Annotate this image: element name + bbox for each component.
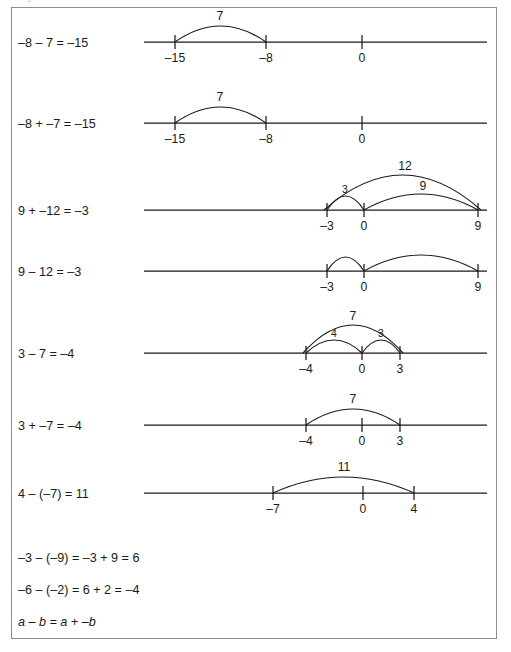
span-arc-label: 7 xyxy=(217,9,224,23)
span-arc xyxy=(327,257,364,271)
span-arc xyxy=(364,194,478,210)
span-arc xyxy=(273,477,414,493)
number-line-row: –8 + –7 = –15–15–807 xyxy=(18,90,487,146)
span-arc-label: 11 xyxy=(338,460,351,474)
axis-tick-label: 9 xyxy=(475,280,482,294)
row-equation-label: –8 + –7 = –15 xyxy=(18,117,96,131)
span-arc xyxy=(327,196,364,210)
span-arc xyxy=(175,26,266,42)
span-arc-label: 9 xyxy=(420,179,427,193)
number-line-row: 3 + –7 = –4–4037 xyxy=(18,392,487,448)
row-equation-label: 3 + –7 = –4 xyxy=(18,419,82,433)
span-arc-label: 12 xyxy=(398,159,412,173)
axis-tick-label: 0 xyxy=(361,219,368,233)
axis-tick-label: –8 xyxy=(259,51,273,65)
axis-tick-label: –15 xyxy=(165,132,186,146)
footer-equation: –6 – (–2) = 6 + 2 = –4 xyxy=(18,583,139,597)
row-equation-label: 9 – 12 = –3 xyxy=(18,265,81,279)
span-arc-label: 3 xyxy=(342,184,348,195)
span-arc xyxy=(306,409,400,425)
number-line-row: 3 – 7 = –4–403743 xyxy=(18,309,487,376)
axis-tick-label: 9 xyxy=(475,219,482,233)
row-equation-label: 9 + –12 = –3 xyxy=(18,204,89,218)
footer-equation: a – b = a + –b xyxy=(18,615,96,629)
axis-tick-label: 0 xyxy=(359,434,366,448)
span-arc-label: 3 xyxy=(378,328,384,339)
number-line-row: 4 – (–7) = 11–70411 xyxy=(18,460,487,516)
span-arc xyxy=(362,340,400,353)
axis-tick-label: 0 xyxy=(359,362,366,376)
axis-tick-label: –8 xyxy=(259,132,273,146)
axis-tick-label: 3 xyxy=(397,362,404,376)
axis-tick-label: 0 xyxy=(359,51,366,65)
number-line-row: 9 – 12 = –3–309 xyxy=(18,255,487,294)
axis-tick-label: –15 xyxy=(165,51,186,65)
row-equation-label: 3 – 7 = –4 xyxy=(18,347,74,361)
axis-tick-label: 0 xyxy=(360,502,367,516)
axis-tick-label: 3 xyxy=(397,434,404,448)
figure-root: integers.tiff –8 – 7 = –15–15–807–8 + –7… xyxy=(0,0,511,652)
number-line-rows: –8 – 7 = –15–15–807–8 + –7 = –15–15–8079… xyxy=(18,9,487,516)
axis-tick-label: 0 xyxy=(361,280,368,294)
axis-tick-label: –4 xyxy=(299,434,313,448)
span-arc-label: 4 xyxy=(331,328,337,339)
number-line-diagram: –8 – 7 = –15–15–807–8 + –7 = –15–15–8079… xyxy=(0,0,511,652)
span-arc-label: 7 xyxy=(350,309,357,323)
span-arc-label: 7 xyxy=(217,90,224,104)
row-equation-label: –8 – 7 = –15 xyxy=(18,36,88,50)
axis-tick-label: –4 xyxy=(299,362,313,376)
span-arc xyxy=(303,325,403,353)
number-line-row: 9 + –12 = –3–3091239 xyxy=(18,159,487,233)
axis-tick-label: –3 xyxy=(320,280,334,294)
number-line-row: –8 – 7 = –15–15–807 xyxy=(18,9,487,65)
axis-tick-label: –7 xyxy=(266,502,280,516)
span-arc xyxy=(175,107,266,123)
axis-tick-label: 0 xyxy=(359,132,366,146)
footer-equations: –3 – (–9) = –3 + 9 = 6–6 – (–2) = 6 + 2 … xyxy=(18,551,139,629)
footer-equation: –3 – (–9) = –3 + 9 = 6 xyxy=(18,551,139,565)
axis-tick-label: 4 xyxy=(411,502,418,516)
span-arc xyxy=(364,255,478,271)
span-arc-label: 7 xyxy=(350,392,357,406)
row-equation-label: 4 – (–7) = 11 xyxy=(18,487,89,501)
axis-tick-label: –3 xyxy=(320,219,334,233)
